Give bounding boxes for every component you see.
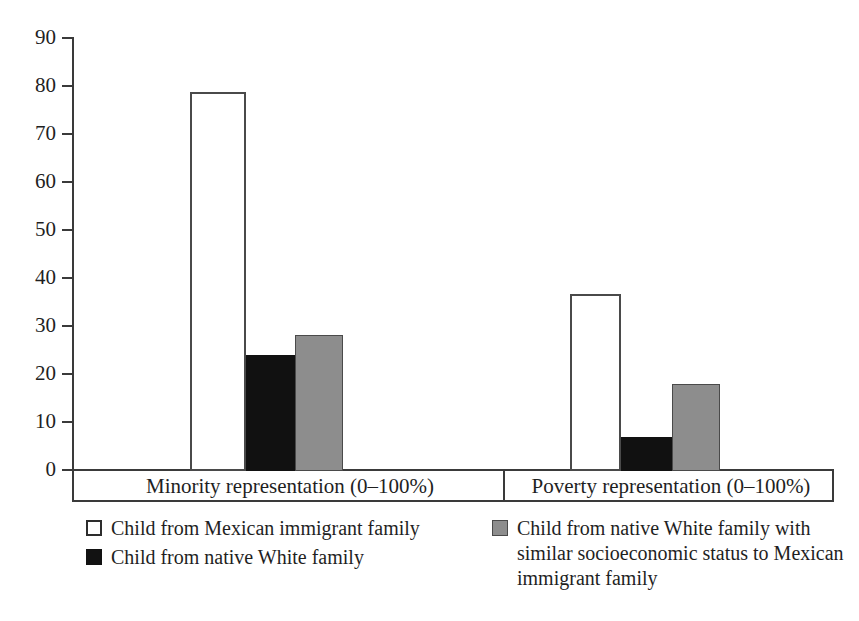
white-swatch-icon bbox=[86, 520, 102, 536]
legend-label-native-white: Child from native White family bbox=[111, 545, 364, 570]
y-axis-line bbox=[72, 37, 74, 502]
y-tick-label-50-wrap: 50 bbox=[0, 219, 56, 240]
y-tick-label-40: 40 bbox=[12, 267, 56, 288]
y-tick-label-20-wrap: 20 bbox=[0, 363, 56, 384]
y-tick-90 bbox=[62, 37, 74, 39]
black-swatch-icon bbox=[86, 549, 102, 565]
y-tick-label-40-wrap: 40 bbox=[0, 267, 56, 288]
y-tick-label-10-wrap: 10 bbox=[0, 411, 56, 432]
bar-chart: 90 80 70 60 50 40 30 20 bbox=[0, 0, 859, 621]
y-tick-label-90-wrap: 90 bbox=[0, 27, 56, 48]
y-tick-label-70: 70 bbox=[12, 123, 56, 144]
y-tick-label-80: 80 bbox=[12, 75, 56, 96]
chart-legend: Child from Mexican immigrant family Chil… bbox=[0, 516, 859, 621]
y-tick-label-0-wrap: 0 bbox=[0, 459, 56, 480]
bar-poverty-native-white bbox=[621, 437, 672, 471]
y-tick-label-70-wrap: 70 bbox=[0, 123, 56, 144]
y-tick-0 bbox=[62, 469, 74, 471]
y-tick-20 bbox=[62, 373, 74, 375]
y-tick-10 bbox=[62, 421, 74, 423]
bar-poverty-native-white-similar-ses bbox=[672, 384, 720, 471]
y-tick-label-30-wrap: 30 bbox=[0, 315, 56, 336]
y-tick-label-50: 50 bbox=[12, 219, 56, 240]
category-label-minority: Minority representation (0–100%) bbox=[80, 472, 500, 500]
y-tick-label-90: 90 bbox=[12, 27, 56, 48]
category-label-box-bottom-border bbox=[72, 500, 834, 502]
y-tick-label-10: 10 bbox=[12, 411, 56, 432]
bar-minority-native-white bbox=[246, 355, 295, 471]
y-tick-30 bbox=[62, 325, 74, 327]
y-tick-label-60: 60 bbox=[12, 171, 56, 192]
legend-item-native-white: Child from native White family bbox=[86, 545, 466, 570]
legend-label-mexican-immigrant: Child from Mexican immigrant family bbox=[111, 516, 420, 541]
bar-poverty-mexican-immigrant bbox=[570, 294, 621, 471]
plot-area: 90 80 70 60 50 40 30 20 bbox=[0, 0, 859, 510]
legend-item-mexican-immigrant: Child from Mexican immigrant family bbox=[86, 516, 466, 541]
bar-minority-native-white-similar-ses bbox=[295, 335, 343, 471]
y-tick-40 bbox=[62, 277, 74, 279]
category-label-box-right-border bbox=[832, 469, 834, 502]
legend-column-left: Child from Mexican immigrant family Chil… bbox=[86, 516, 466, 574]
bar-minority-mexican-immigrant bbox=[190, 92, 246, 471]
legend-column-right: Child from native White family with simi… bbox=[492, 516, 852, 595]
gray-swatch-icon bbox=[492, 520, 508, 536]
y-tick-70 bbox=[62, 133, 74, 135]
legend-label-native-white-similar-ses: Child from native White family with simi… bbox=[517, 516, 852, 591]
y-tick-label-60-wrap: 60 bbox=[0, 171, 56, 192]
category-label-poverty: Poverty representation (0–100%) bbox=[512, 472, 830, 500]
y-tick-label-0: 0 bbox=[12, 459, 56, 480]
y-tick-50 bbox=[62, 229, 74, 231]
y-tick-80 bbox=[62, 85, 74, 87]
y-tick-label-30: 30 bbox=[12, 315, 56, 336]
category-separator-line bbox=[503, 469, 505, 502]
legend-item-native-white-similar-ses: Child from native White family with simi… bbox=[492, 516, 852, 591]
y-tick-60 bbox=[62, 181, 74, 183]
y-tick-label-80-wrap: 80 bbox=[0, 75, 56, 96]
y-tick-label-20: 20 bbox=[12, 363, 56, 384]
